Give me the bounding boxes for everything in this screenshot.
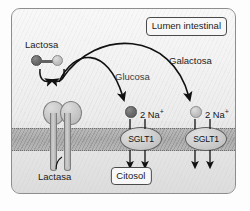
lumen-intestinal-label: Lumen intestinal — [146, 17, 227, 36]
diagram-page: SGLT1 SGLT1 — [0, 0, 250, 211]
lactosa-label: Lactosa — [25, 40, 58, 50]
glucosa-label: Glucosa — [115, 72, 150, 82]
hydrolysis-arrow-glucose — [40, 69, 50, 82]
sodium-label-left: 2 Na+ — [140, 108, 164, 120]
citosol-label: Citosol — [110, 167, 151, 186]
sodium-label-right-text: 2 Na — [205, 110, 225, 120]
lactase-pointer-line — [56, 157, 62, 169]
sodium-charge-left: + — [160, 108, 164, 115]
sodium-label-left-text: 2 Na — [140, 110, 160, 120]
diagram-frame: SGLT1 SGLT1 — [11, 8, 236, 194]
sodium-charge-right: + — [225, 108, 229, 115]
glucose-transport-arrow — [59, 57, 123, 97]
lactasa-label: Lactasa — [38, 172, 71, 182]
sodium-label-right: 2 Na+ — [205, 108, 229, 120]
galactosa-label: Galactosa — [169, 56, 212, 66]
